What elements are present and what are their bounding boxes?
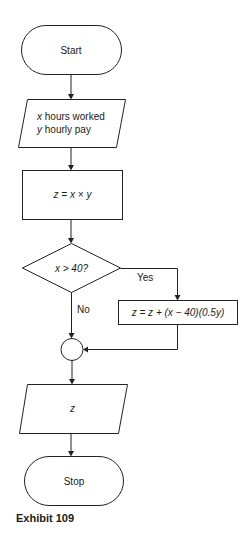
connector-node — [61, 339, 83, 361]
start-label: Start — [60, 45, 81, 56]
input-text-pay: hourly pay — [42, 124, 91, 135]
yes-label: Yes — [137, 272, 153, 283]
arrowhead-icon — [175, 295, 181, 301]
overtime-label: z = z + (x − 40)(0.5y) — [131, 307, 225, 318]
arrowhead-icon — [68, 238, 74, 244]
output-label: z — [69, 403, 75, 414]
arrowhead-icon — [69, 333, 75, 339]
no-label: No — [77, 304, 90, 315]
arrowhead-icon — [68, 165, 74, 171]
compute-node: z = x × y — [23, 171, 123, 220]
output-node: z — [20, 385, 128, 434]
arrowhead-icon — [68, 94, 74, 100]
stop-label: Stop — [64, 476, 85, 487]
input-text-hours: hours worked — [42, 111, 105, 122]
decision-label: x > 40? — [54, 263, 89, 274]
exhibit-caption: Exhibit 109 — [16, 512, 74, 524]
input-line-2: y hourly pay — [36, 124, 91, 135]
stop-node: Stop — [25, 457, 124, 506]
overtime-node: z = z + (x − 40)(0.5y) — [119, 301, 238, 325]
input-node: x hours worked y hourly pay — [19, 100, 126, 148]
arrowhead-icon — [68, 451, 74, 457]
decision-node: x > 40? — [23, 244, 121, 293]
arrowhead-icon — [83, 347, 88, 353]
start-node: Start — [22, 26, 122, 75]
input-line-1: x hours worked — [36, 111, 105, 122]
arrowhead-icon — [69, 379, 75, 385]
edge-overtime-connector — [88, 325, 178, 350]
flowchart-diagram: Start x hours worked y hourly pay z = x … — [0, 0, 252, 534]
compute-label: z = x × y — [53, 189, 93, 200]
